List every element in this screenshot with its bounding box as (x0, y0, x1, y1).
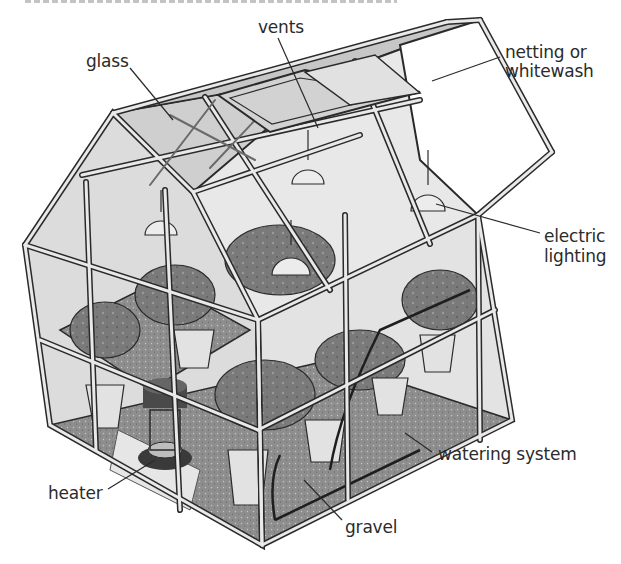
label-glass: glass (86, 51, 129, 71)
label-gravel: gravel (345, 517, 397, 537)
greenhouse-diagram: vents glass netting or whitewash electri… (0, 0, 621, 564)
label-vents: vents (258, 17, 304, 37)
label-watering-system: watering system (438, 444, 577, 464)
label-heater: heater (48, 483, 103, 503)
label-lighting-line1: electric (544, 226, 605, 246)
label-netting-line1: netting or (505, 42, 587, 62)
label-lighting-line2: lighting (544, 246, 606, 266)
greenhouse-illustration (0, 0, 621, 564)
label-netting-line2: whitewash (505, 61, 594, 81)
